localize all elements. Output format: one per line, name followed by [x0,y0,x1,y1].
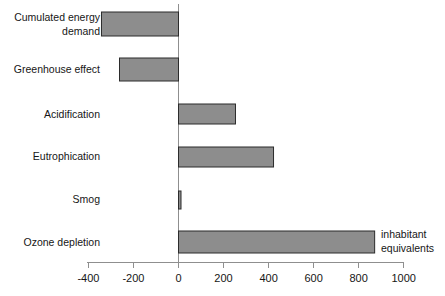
bar-ozone-depletion [179,231,375,253]
bar-chart: Cumulated energy demand Greenhouse effec… [0,0,445,296]
bar-smog [179,191,182,209]
x-axis-ticks [88,263,403,269]
bar-acidification [179,104,236,124]
unit-annotation-line1: inhabitant [381,228,427,240]
bars-group [101,12,374,253]
x-tick-label-400: 400 [259,272,277,284]
category-label-acidification: Acidification [44,108,100,120]
category-label-eutrophication: Eutrophication [33,150,100,162]
bar-greenhouse-effect [120,58,179,81]
bar-cumulated-energy-demand [101,12,178,36]
category-label-cumulated-energy-demand-line1: Cumulated energy [14,11,101,23]
x-tick-label--200: -200 [122,272,144,284]
chart-container: Cumulated energy demand Greenhouse effec… [0,0,445,296]
category-label-greenhouse-effect: Greenhouse effect [14,63,100,75]
x-axis-tick-labels: -400-20002004006008001000 [77,272,416,284]
x-tick-label-0: 0 [175,272,181,284]
x-tick-label--400: -400 [77,272,99,284]
x-tick-label-600: 600 [304,272,322,284]
category-label-ozone-depletion: Ozone depletion [24,236,101,248]
unit-annotation-line2: equivalents [381,242,434,254]
category-label-cumulated-energy-demand-line2: demand [62,25,100,37]
x-tick-label-200: 200 [214,272,232,284]
category-labels: Cumulated energy demand Greenhouse effec… [14,11,101,248]
x-tick-label-800: 800 [349,272,367,284]
category-label-smog: Smog [73,193,101,205]
bar-eutrophication [179,147,274,167]
x-tick-label-1000: 1000 [391,272,415,284]
